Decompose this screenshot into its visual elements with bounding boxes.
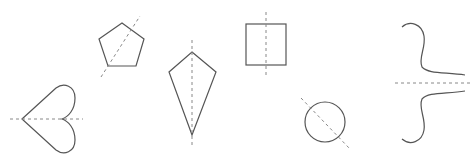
top-curve [402, 24, 465, 75]
kite-shape [169, 40, 216, 146]
s-curves-shape [395, 24, 470, 143]
circle-shape [301, 98, 350, 149]
pentagon-symmetry-line [101, 16, 140, 77]
heart-shape [10, 85, 83, 153]
circle-symmetry-line [301, 98, 350, 149]
bottom-curve [402, 91, 465, 142]
rectangle-shape [246, 12, 286, 77]
symmetry-diagram [0, 0, 476, 159]
pentagon-shape [99, 16, 144, 77]
